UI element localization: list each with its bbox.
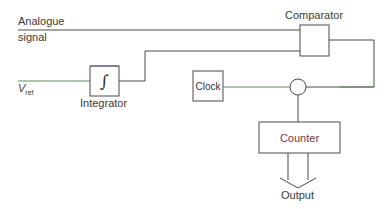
clock-label: Clock xyxy=(193,71,223,101)
comparator-label: Comparator xyxy=(285,9,343,21)
analogue-label-line1: Analogue xyxy=(18,15,65,27)
diagram-wires xyxy=(0,0,387,209)
analogue-label-line2: signal xyxy=(18,31,47,43)
gate-circle xyxy=(290,79,306,95)
integrator-label: Integrator xyxy=(80,97,127,109)
vref-sub: ref xyxy=(25,89,33,96)
vref-label: Vref xyxy=(18,82,34,96)
output-label: Output xyxy=(281,189,314,201)
counter-label: Counter xyxy=(259,122,340,153)
integrator-symbol: ∫ xyxy=(90,66,119,96)
comparator-box xyxy=(300,25,329,56)
output-arrow xyxy=(280,178,316,188)
